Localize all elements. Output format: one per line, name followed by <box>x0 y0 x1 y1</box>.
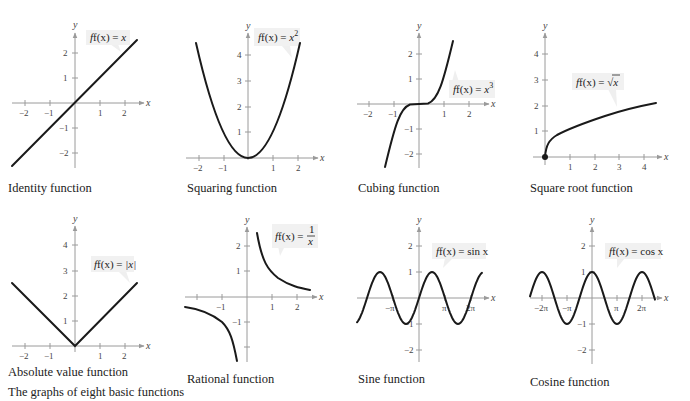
label-leader <box>443 258 453 268</box>
tick-label: −2π <box>534 303 549 313</box>
tick-label: π <box>614 303 619 313</box>
tick-label: 1 <box>236 266 241 276</box>
y-axis-label: y <box>416 20 422 31</box>
sqrt-curve <box>545 103 656 157</box>
x-axis-label: x <box>663 292 669 303</box>
tick-label: −1 <box>388 109 398 119</box>
tick-label: −1 <box>577 319 587 329</box>
tick-label: 1 <box>63 316 68 326</box>
tick-label: 2 <box>237 102 242 112</box>
absolute-value-graph: −2 −1 1 2 1 2 3 4 x y ff(x) = |x| <box>12 213 151 361</box>
cosine-graph: −2π −π π 2π 2 1 −1 −2 x y ff(x) = cos x <box>530 214 669 364</box>
square-root-graph: 1 2 3 4 1 2 3 4 x y ff(x) = √x <box>533 20 669 172</box>
y-axis-label: y <box>244 214 250 225</box>
cubing-graph: −2 −1 1 2 2 1 −1 −2 x y ff(x) = x3 <box>357 20 496 168</box>
label-leader <box>110 44 121 52</box>
tick-label: 1 <box>408 74 413 84</box>
tick-label: −2 <box>363 109 373 119</box>
tick-label: 1 <box>237 127 242 137</box>
caption-identity: Identity function <box>8 181 92 196</box>
tick-label: 2 <box>122 108 127 118</box>
caption-sine: Sine function <box>358 372 425 387</box>
sine-graph: −π π 2π 2 1 −1 −2 x y ff(x) = sin x <box>357 214 496 362</box>
equation-label: ff(x) = sin x <box>436 245 489 258</box>
fraction-denominator: x <box>307 235 313 247</box>
tick-label: 1 <box>568 162 573 172</box>
tick-label: 1 <box>534 126 539 136</box>
x-axis-label: x <box>145 97 151 108</box>
tick-label: −1 <box>44 351 54 361</box>
tick-label: −2 <box>19 351 29 361</box>
tick-label: −2 <box>193 163 203 173</box>
tick-label: 3 <box>63 266 68 276</box>
tick-label: 4 <box>63 240 68 250</box>
equation-label: ff(x) = |x| <box>94 258 136 271</box>
tick-label: 1 <box>271 163 276 173</box>
caption-square-root: Square root function <box>530 181 633 196</box>
caption-absolute-value: Absolute value function <box>8 365 128 380</box>
identity-graph: −2 −1 1 2 2 1 −1 −2 x y ff(x) = x <box>12 19 151 168</box>
x-axis-label: x <box>490 292 496 303</box>
tick-label: 4 <box>237 50 242 60</box>
tick-label: 2 <box>408 49 413 59</box>
equation-label: ff(x) = x <box>90 31 126 44</box>
y-axis-label: y <box>72 213 78 224</box>
caption-squaring: Squaring function <box>187 181 277 196</box>
y-axis-label: y <box>245 20 251 31</box>
tick-label: 3 <box>617 162 622 172</box>
y-axis-label: y <box>72 19 78 30</box>
tick-label: 2 <box>581 241 586 251</box>
tick-label: −π <box>562 303 572 313</box>
tick-label: 2 <box>593 162 598 172</box>
equation-label: ff(x) = cos x <box>609 245 664 258</box>
label-leader <box>617 258 625 268</box>
label-leader <box>608 89 617 107</box>
tick-label: 2 <box>467 109 472 119</box>
squaring-graph: −2 −1 1 2 1 2 3 4 x y ff(x) = x2 <box>186 20 325 173</box>
tick-label: 4 <box>534 49 539 59</box>
tick-label: −1 <box>59 123 69 133</box>
tick-label: −1 <box>216 302 226 312</box>
tick-label: 2 <box>408 241 413 251</box>
rational-graph: −1 1 2 2 1 −1 x y ff(x) = 1 x <box>185 214 324 362</box>
x-axis-label: x <box>663 151 669 162</box>
tick-label: 2π <box>637 303 647 313</box>
tick-label: −2 <box>577 345 587 355</box>
caption-cubing: Cubing function <box>358 181 440 196</box>
caption-cosine: Cosine function <box>530 375 610 390</box>
equation-label: ff(x) = √x <box>576 76 618 89</box>
tick-label: 3 <box>237 76 242 86</box>
tick-label: 1 <box>270 302 275 312</box>
equation-label: ff(x) = <box>275 230 304 243</box>
tick-label: −1 <box>218 163 228 173</box>
tick-label: −1 <box>404 124 414 134</box>
tick-label: 2 <box>63 291 68 301</box>
x-axis-label: x <box>490 98 496 109</box>
tick-label: 1 <box>98 351 103 361</box>
tick-label: −2 <box>404 149 414 159</box>
tick-label: 1 <box>408 267 413 277</box>
tick-label: 2 <box>534 101 539 111</box>
fraction-numerator: 1 <box>309 223 315 235</box>
x-axis-label: x <box>319 152 325 163</box>
tick-label: 2 <box>236 241 241 251</box>
tick-label: 1 <box>98 108 103 118</box>
figure-caption: The graphs of eight basic functions <box>8 385 184 400</box>
tick-label: 2 <box>295 302 300 312</box>
tick-label: 1 <box>442 109 447 119</box>
y-axis-label: y <box>542 20 548 31</box>
y-axis-label: y <box>589 214 595 225</box>
rational-left-branch <box>185 307 237 361</box>
equation-label: ff(x) = x2 <box>258 29 298 44</box>
tick-label: 2 <box>63 48 68 58</box>
tick-label: 4 <box>642 162 647 172</box>
tick-label: −π <box>385 303 395 313</box>
tick-label: 1 <box>581 267 586 277</box>
endpoint-dot <box>542 154 548 160</box>
tick-label: −1 <box>44 108 54 118</box>
tick-label: 1 <box>63 73 68 83</box>
label-leader <box>282 46 292 58</box>
x-axis-label: x <box>318 291 324 302</box>
tick-label: 3 <box>534 75 539 85</box>
caption-rational: Rational function <box>187 372 274 387</box>
